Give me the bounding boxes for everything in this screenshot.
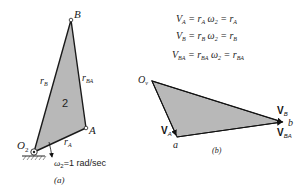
joint-A xyxy=(84,126,88,130)
svg-text:rBA: rBA xyxy=(82,72,94,84)
figure-b: Ov a b VA VB VBA (b) xyxy=(138,74,293,155)
figure-a: B A O2 rB rBA rA 2 ω2=1 rad/sec (a) xyxy=(17,8,106,185)
link-2-triangle xyxy=(34,20,86,152)
caption-b: (b) xyxy=(212,146,222,155)
svg-text:A: A xyxy=(88,124,96,136)
caption-a: (a) xyxy=(54,175,65,185)
svg-text:ω2=1 rad/sec: ω2=1 rad/sec xyxy=(54,158,106,169)
equation-VB: VB = rB ω2 = rB xyxy=(176,30,237,43)
joint-B xyxy=(69,18,73,22)
svg-text:VB: VB xyxy=(277,105,288,117)
equations: VA = rA ω2 = rA VB = rB ω2 = rB VBA = rB… xyxy=(172,13,244,62)
svg-text:VBA: VBA xyxy=(277,127,292,139)
link-label: 2 xyxy=(62,97,68,109)
svg-text:rB: rB xyxy=(40,75,48,87)
svg-text:Ov: Ov xyxy=(138,74,148,86)
point-a-label: a xyxy=(173,139,178,150)
svg-text:rA: rA xyxy=(64,136,72,148)
equation-VA: VA = rA ω2 = rA xyxy=(176,13,237,26)
kinematics-diagram: B A O2 rB rBA rA 2 ω2=1 rad/sec (a) VA =… xyxy=(0,0,306,194)
svg-text:O2: O2 xyxy=(17,139,29,154)
velocity-polygon xyxy=(152,81,283,137)
svg-text:VA: VA xyxy=(161,125,172,137)
svg-text:B: B xyxy=(74,8,81,20)
point-b-label: b xyxy=(288,117,293,128)
equation-VBA: VBA = rBA ω2 = rBA xyxy=(172,49,244,62)
